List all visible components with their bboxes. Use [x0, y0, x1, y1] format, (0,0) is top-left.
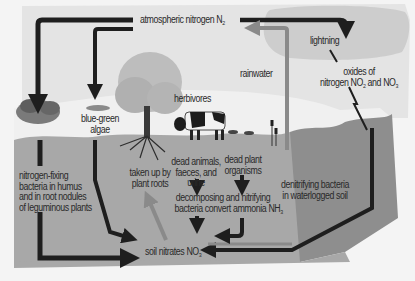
text: urine — [170, 178, 223, 189]
label-atmospheric-nitrogen: atmospheric nitrogen N2 — [140, 15, 225, 29]
text: in waterlogged soil — [280, 191, 350, 202]
label-denitrifying-bacteria: denitrifying bacteria in waterlogged soi… — [280, 180, 350, 201]
subscript: 3 — [199, 252, 202, 258]
diagram-graphics — [0, 0, 415, 281]
label-decomposing-bacteria: decomposing and nitrifying bacteria conv… — [175, 193, 272, 217]
text: atmospheric nitrogen N — [140, 14, 222, 25]
text: and in root nodules — [19, 192, 92, 203]
label-oxides: oxides of nitrogen NO2 and NO3 — [311, 67, 408, 91]
label-rainwater: rainwater — [240, 69, 273, 80]
text: of leguminous plants — [19, 203, 92, 214]
label-blue-green-algae: blue-green algae — [74, 114, 127, 135]
subscript: 3 — [280, 209, 283, 215]
label-taken-up-by-roots: taken up by plant roots — [124, 168, 177, 189]
text: and NO — [366, 77, 396, 88]
text: taken up by — [124, 168, 177, 179]
text: nitrogen-fixing — [19, 171, 92, 182]
text: bacteria convert ammonia NH3 — [175, 204, 272, 218]
text: organisms — [219, 166, 267, 177]
text: blue-green — [74, 114, 127, 125]
algae-icon — [86, 105, 110, 111]
subscript: 3 — [396, 83, 399, 89]
label-dead-animals: dead animals, faeces, and urine — [170, 157, 223, 189]
text: denitrifying bacteria — [280, 180, 350, 191]
subscript: 2 — [222, 20, 225, 26]
label-herbivores: herbivores — [174, 94, 211, 105]
label-dead-plant-organisms: dead plant organisms — [219, 155, 267, 176]
text: nitrogen NO — [320, 77, 363, 88]
text: nitrogen NO2 and NO3 — [311, 78, 408, 92]
text: bacteria convert ammonia NH — [175, 203, 281, 214]
nitrogen-cycle-diagram: atmospheric nitrogen N2 lightning oxides… — [0, 0, 415, 281]
label-nitrogen-fixing-bacteria: nitrogen-fixing bacteria in humus and in… — [19, 171, 92, 213]
text: soil nitrates NO — [145, 246, 199, 257]
text: algae — [74, 125, 127, 136]
label-lightning: lightning — [310, 36, 339, 47]
text: dead animals, — [170, 157, 223, 168]
text: dead plant — [219, 155, 267, 166]
text: plant roots — [124, 179, 177, 190]
label-soil-nitrates: soil nitrates NO3 — [145, 247, 201, 261]
